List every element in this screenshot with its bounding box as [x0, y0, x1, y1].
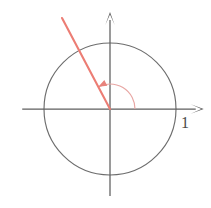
- figure-canvas: 1: [0, 0, 211, 208]
- angle-arc-group: [98, 80, 135, 109]
- unit-label: 1: [181, 114, 189, 131]
- terminal-ray-line: [62, 18, 110, 109]
- x-axis: [22, 104, 204, 113]
- unit-circle-figure: 1: [0, 0, 211, 208]
- angle-arc-arrowhead-icon: [98, 80, 107, 87]
